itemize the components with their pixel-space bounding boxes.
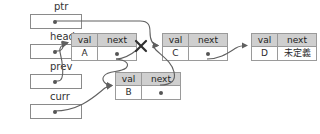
node-c-next: [189, 47, 227, 60]
node-c-val: C: [163, 47, 189, 60]
linked-list-diagram: ptr head prev curr val next A val next: [0, 0, 320, 134]
node-d-header-val: val: [252, 34, 278, 46]
node-b-next-pointer-dot: [159, 91, 163, 95]
node-a-header-val: val: [72, 34, 98, 46]
broken-link-x-icon: [136, 41, 146, 51]
list-node-d: val next D 未定義: [251, 33, 317, 61]
list-node-a: val next A: [71, 33, 137, 61]
pointer-dot-curr: [53, 110, 57, 114]
node-c-next-pointer-dot: [206, 52, 210, 56]
pointer-box-ptr: [30, 14, 82, 29]
pointer-label-curr: curr: [50, 91, 70, 102]
pointer-box-curr: [30, 104, 82, 119]
node-b-header-next: next: [142, 73, 180, 85]
node-a-header: val next: [72, 34, 136, 47]
pointer-dot-prev: [53, 80, 57, 84]
node-d-next-undefined: 未定義: [278, 47, 316, 60]
node-b-header-val: val: [116, 73, 142, 85]
node-a-body: A: [72, 47, 136, 60]
list-node-b: val next B: [115, 72, 181, 100]
node-b-header: val next: [116, 73, 180, 86]
broken-link-x-icon-2: [136, 41, 146, 51]
node-c-header-next: next: [189, 34, 227, 46]
node-b-next: [142, 86, 180, 99]
list-node-c: val next C: [162, 33, 228, 61]
pointer-dot-head: [53, 50, 57, 54]
node-b-body: B: [116, 86, 180, 99]
pointer-label-ptr: ptr: [54, 1, 68, 12]
node-a-header-next: next: [98, 34, 136, 46]
node-a-next-pointer-dot: [115, 52, 119, 56]
node-c-body: C: [163, 47, 227, 60]
node-d-body: D 未定義: [252, 47, 316, 60]
node-d-val: D: [252, 47, 278, 60]
node-c-header: val next: [163, 34, 227, 47]
node-a-next: [98, 47, 136, 60]
pointer-label-prev: prev: [50, 61, 72, 72]
node-a-val: A: [72, 47, 98, 60]
node-b-val: B: [116, 86, 142, 99]
pointer-dot-ptr: [53, 20, 57, 24]
node-c-header-val: val: [163, 34, 189, 46]
pointer-box-prev: [30, 74, 82, 89]
node-d-header: val next: [252, 34, 316, 47]
node-d-header-next: next: [278, 34, 316, 46]
